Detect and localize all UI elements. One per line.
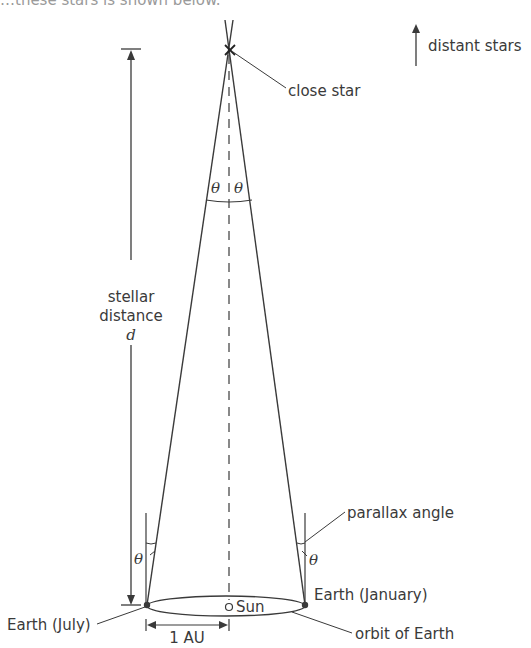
- sight-lines: [147, 20, 305, 605]
- sun-icon: [226, 604, 233, 611]
- january-angle-arc: [297, 543, 305, 544]
- distance-label: distance: [99, 307, 163, 325]
- one-au-label: 1 AU: [169, 629, 205, 647]
- earth-july-leader: [97, 607, 145, 624]
- earth-january-dot-icon: [302, 602, 308, 608]
- earth-january-label: Earth (January): [314, 586, 428, 604]
- au-arrow-left-icon: [147, 621, 156, 629]
- distance-arrow-up-icon: [127, 50, 135, 60]
- stellar-label: stellar: [108, 288, 155, 306]
- orbit-of-earth-label: orbit of Earth: [355, 625, 454, 643]
- distant-stars-label: distant stars: [428, 37, 522, 55]
- parallax-angle-label: parallax angle: [347, 504, 454, 522]
- distance-symbol-d: d: [126, 326, 136, 344]
- july-angle-arc: [146, 543, 156, 544]
- theta-january: θ: [309, 551, 318, 569]
- theta-left-apex: θ: [211, 179, 220, 197]
- close-star-label: close star: [288, 82, 361, 100]
- orbit-leader: [292, 612, 352, 633]
- theta-right-apex: θ: [234, 179, 243, 197]
- distance-arrow-down-icon: [127, 595, 135, 605]
- parallax-angle-leader: [305, 512, 345, 542]
- close-star-leader: [233, 52, 286, 88]
- earth-july-label: Earth (July): [7, 616, 91, 634]
- stellar-parallax-diagram: distant stars close star θ θ stellar dis…: [0, 0, 531, 648]
- sun-label: Sun: [236, 598, 265, 616]
- theta-july: θ: [134, 550, 143, 568]
- distant-stars-arrow-icon: [412, 24, 420, 66]
- au-arrow-right-icon: [219, 621, 228, 629]
